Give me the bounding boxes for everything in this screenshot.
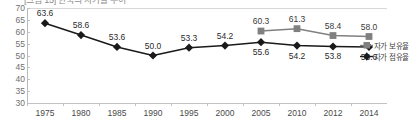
point-label-occupancy-2010: 54.2 — [289, 51, 306, 61]
point-label-occupancy-2000: 54.2 — [217, 31, 234, 41]
data-point-marker — [41, 19, 49, 27]
data-point-marker — [366, 33, 373, 40]
point-label-occupancy-1985: 53.6 — [109, 32, 126, 42]
data-point-marker — [294, 25, 301, 32]
series-line — [45, 23, 369, 55]
point-label-ownership-2010: 61.3 — [289, 14, 306, 24]
diamond-marker-icon — [360, 51, 374, 62]
data-point-marker — [221, 41, 229, 49]
legend-label-ownership: 자가 보유율 — [374, 40, 409, 51]
point-label-ownership-2012: 58.4 — [325, 21, 342, 31]
point-label-ownership-2005: 60.3 — [253, 16, 270, 26]
point-label-occupancy-1980: 58.6 — [73, 20, 90, 30]
legend: 자가 보유율 자가 점유율 — [360, 40, 409, 62]
data-point-marker — [113, 43, 121, 51]
data-point-marker — [185, 44, 193, 52]
data-point-marker — [149, 51, 157, 59]
chart-container: [그림 15] 한국의 자가율 추이 706560555045403530 19… — [0, 0, 409, 134]
point-label-occupancy-1975: 63.6 — [37, 8, 54, 18]
series-occupancy — [41, 19, 373, 60]
data-point-marker — [257, 38, 265, 46]
data-point-marker — [77, 31, 85, 39]
series-line — [261, 29, 369, 37]
data-point-marker — [258, 28, 265, 35]
point-label-occupancy-1995: 53.3 — [181, 33, 198, 43]
legend-label-occupancy: 자가 점유율 — [374, 51, 409, 62]
series-ownership — [258, 25, 373, 40]
data-point-marker — [293, 41, 301, 49]
point-label-occupancy-1990: 50.0 — [145, 41, 162, 51]
legend-item-occupancy[interactable]: 자가 점유율 — [360, 51, 409, 62]
point-label-occupancy-2012: 53.8 — [325, 51, 342, 61]
square-marker-icon — [360, 40, 374, 51]
point-label-occupancy-2005: 55.6 — [253, 47, 270, 57]
legend-item-ownership[interactable]: 자가 보유율 — [360, 40, 409, 51]
data-point-marker — [330, 32, 337, 39]
data-point-marker — [329, 42, 337, 50]
point-label-ownership-2014: 58.0 — [361, 22, 378, 32]
series-plot — [0, 0, 409, 134]
